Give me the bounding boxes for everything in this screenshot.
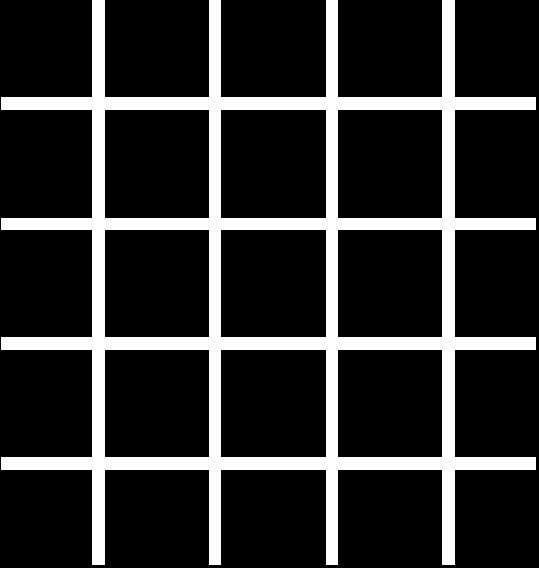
vertical-grid-line [326, 0, 338, 565]
hermann-grid [0, 0, 539, 568]
vertical-grid-line [209, 0, 221, 565]
horizontal-grid-line [1, 218, 536, 230]
horizontal-grid-line [1, 457, 536, 470]
horizontal-grid-line [1, 337, 536, 350]
vertical-grid-line [442, 0, 455, 565]
horizontal-grid-line [1, 97, 536, 110]
vertical-grid-line [92, 0, 105, 565]
